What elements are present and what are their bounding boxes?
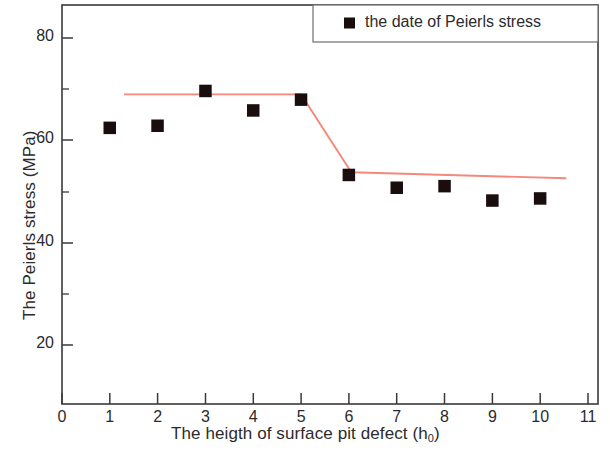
x-tick-label-1: 1	[95, 408, 125, 426]
x-axis-label-tail: )	[434, 424, 440, 443]
y-tick-label-80: 80	[14, 27, 54, 45]
y-tick-label-40: 40	[14, 232, 54, 250]
x-axis-label: The heigth of surface pit defect (h0)	[171, 424, 440, 444]
peierls-stress-chart	[0, 0, 610, 453]
x-tick-label-3: 3	[191, 408, 221, 426]
y-axis-label: The Peierls stress (MPa)	[20, 131, 40, 320]
plot-frame	[62, 5, 598, 404]
data-point	[151, 120, 164, 133]
x-axis-label-main: The heigth of surface pit defect (h	[171, 424, 428, 443]
x-tick-label-8: 8	[430, 408, 460, 426]
data-point	[199, 85, 212, 98]
data-point	[391, 182, 404, 195]
legend-marker-icon	[344, 18, 355, 29]
data-point	[343, 169, 356, 182]
y-tick-label-20: 20	[14, 334, 54, 352]
x-tick-label-5: 5	[286, 408, 316, 426]
x-tick-label-2: 2	[143, 408, 173, 426]
x-tick-label-11: 11	[573, 408, 603, 426]
legend-label: the date of Peierls stress	[365, 13, 541, 31]
y-tick-label-60: 60	[14, 129, 54, 147]
data-point	[438, 180, 451, 193]
data-point	[104, 122, 117, 135]
x-tick-label-10: 10	[525, 408, 555, 426]
x-tick-label-4: 4	[238, 408, 268, 426]
data-point	[247, 104, 260, 117]
x-tick-label-9: 9	[477, 408, 507, 426]
x-tick-label-0: 0	[47, 408, 77, 426]
x-tick-label-6: 6	[334, 408, 364, 426]
data-point	[295, 93, 308, 106]
x-tick-label-7: 7	[382, 408, 412, 426]
data-point	[486, 194, 499, 207]
data-point	[534, 192, 547, 205]
